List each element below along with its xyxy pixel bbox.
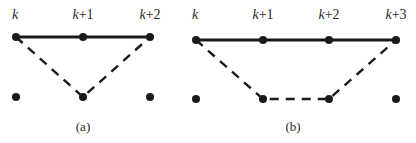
bottom-node: [392, 95, 400, 103]
node-label: k+1: [252, 7, 273, 22]
bottom-node: [79, 93, 87, 101]
top-node: [79, 33, 87, 41]
panel-b: kk+1k+2k+3(b): [192, 7, 407, 134]
node-label: k: [192, 7, 199, 22]
top-node: [392, 36, 400, 44]
dashed-path: [16, 37, 150, 97]
bottom-node: [146, 93, 154, 101]
bottom-node: [12, 93, 20, 101]
panel-a: kk+1k+2(a): [12, 7, 161, 134]
trellis-diagram: kk+1k+2(a) kk+1k+2k+3(b): [0, 0, 416, 143]
top-node: [325, 36, 333, 44]
node-label: k+1: [72, 7, 93, 22]
top-node: [146, 33, 154, 41]
top-node: [259, 36, 267, 44]
dashed-path: [196, 40, 396, 99]
bottom-node: [192, 95, 200, 103]
node-label: k+3: [385, 7, 406, 22]
node-label: k: [12, 7, 19, 22]
bottom-node: [259, 95, 267, 103]
node-label: k+2: [318, 7, 339, 22]
panel-caption: (a): [76, 119, 90, 134]
node-label: k+2: [139, 7, 160, 22]
panel-caption: (b): [285, 119, 300, 134]
top-node: [12, 33, 20, 41]
top-node: [192, 36, 200, 44]
bottom-node: [325, 95, 333, 103]
